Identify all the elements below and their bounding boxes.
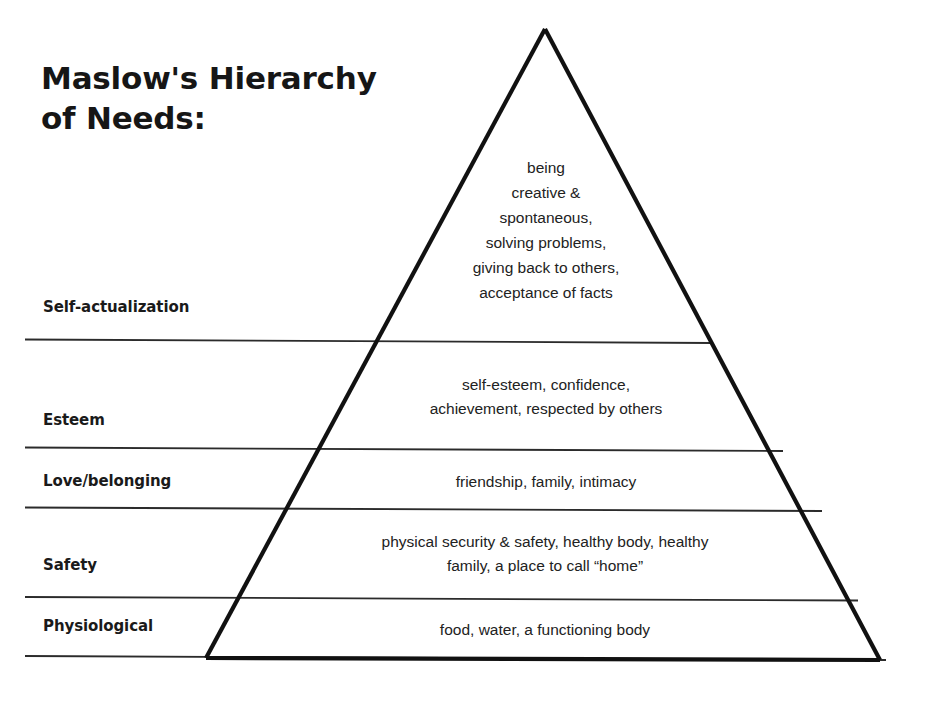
tier-text-love-belonging: friendship, family, intimacy xyxy=(396,470,696,494)
tier-text-self-actualization: being creative & spontaneous, solving pr… xyxy=(421,155,671,305)
divider-line-safety xyxy=(25,597,858,601)
maslow-hierarchy-diagram: Maslow's Hierarchy of Needs: Self-actual… xyxy=(0,0,926,705)
tier-text-safety: physical security & safety, healthy body… xyxy=(300,530,790,577)
tier-label-self-actualization: Self-actualization xyxy=(43,298,189,316)
divider-line-love-belonging xyxy=(25,508,822,512)
tier-label-safety: Safety xyxy=(43,556,97,574)
divider-line-esteem xyxy=(25,448,783,452)
pyramid-graphic xyxy=(0,0,926,705)
tier-text-physiological: food, water, a functioning body xyxy=(330,618,760,642)
tier-label-physiological: Physiological xyxy=(43,617,153,635)
pyramid-base-edge xyxy=(206,658,880,660)
divider-line-self-actualization xyxy=(25,340,712,344)
tier-label-love-belonging: Love/belonging xyxy=(43,472,171,490)
tier-label-esteem: Esteem xyxy=(43,411,105,429)
tier-text-esteem: self-esteem, confidence, achievement, re… xyxy=(396,373,696,420)
